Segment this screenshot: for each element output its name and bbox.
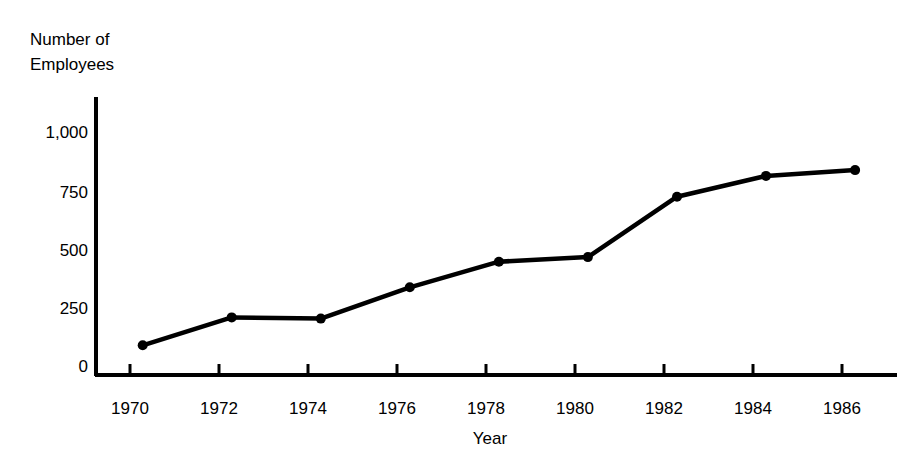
y-tick-label-0: 0 (79, 357, 88, 376)
data-point (672, 192, 682, 202)
data-point (583, 252, 593, 262)
y-tick-label-250: 250 (60, 299, 88, 318)
y-axis-title-line-2: Employees (30, 55, 114, 74)
series-markers-group (138, 165, 860, 350)
x-tick-label-1984: 1984 (734, 399, 772, 418)
x-tick-label-1980: 1980 (556, 399, 594, 418)
x-tick-label-1978: 1978 (467, 399, 505, 418)
data-point (316, 314, 326, 324)
chart-figure: Number of Employees 1,000 750 500 250 0 … (0, 0, 915, 470)
y-tick-label-500: 500 (60, 241, 88, 260)
x-tick-label-1970: 1970 (111, 399, 149, 418)
y-tick-label-750: 750 (60, 183, 88, 202)
data-point (850, 165, 860, 175)
x-axis-title: Year (473, 429, 508, 448)
x-tick-label-1972: 1972 (200, 399, 238, 418)
y-tick-label-1000: 1,000 (45, 123, 88, 142)
data-point (761, 171, 771, 181)
data-series-number-of-employees (138, 165, 860, 350)
data-point (494, 257, 504, 267)
x-tick-label-1986: 1986 (823, 399, 861, 418)
line-chart: Number of Employees 1,000 750 500 250 0 … (0, 0, 915, 470)
data-point (138, 340, 148, 350)
x-tick-label-1976: 1976 (378, 399, 416, 418)
x-tick-label-1982: 1982 (645, 399, 683, 418)
y-axis-title-line-1: Number of (30, 30, 110, 49)
data-point (227, 312, 237, 322)
x-tick-label-1974: 1974 (289, 399, 327, 418)
data-point (405, 282, 415, 292)
